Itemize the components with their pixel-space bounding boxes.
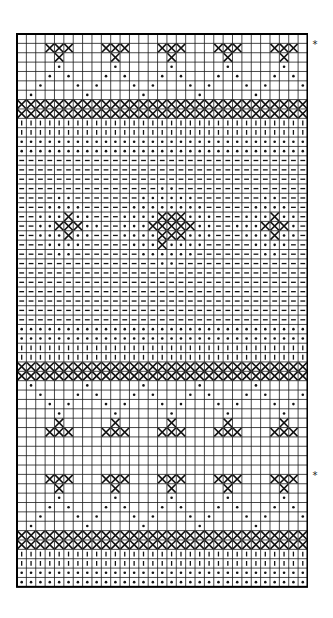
dot-symbol bbox=[208, 215, 211, 218]
dot-symbol bbox=[227, 581, 230, 584]
dot-symbol bbox=[198, 225, 201, 228]
dot-symbol bbox=[180, 75, 183, 78]
dot-symbol bbox=[152, 84, 155, 87]
dot-symbol bbox=[292, 328, 295, 331]
dot-symbol bbox=[227, 412, 230, 415]
dot-symbol bbox=[301, 328, 304, 331]
dot-symbol bbox=[30, 581, 33, 584]
dot-symbol bbox=[67, 581, 70, 584]
dot-symbol bbox=[245, 328, 248, 331]
dot-symbol bbox=[152, 150, 155, 153]
dot-symbol bbox=[58, 328, 61, 331]
dot-symbol bbox=[133, 225, 136, 228]
dot-symbol bbox=[198, 150, 201, 153]
dot-symbol bbox=[133, 571, 136, 574]
dot-symbol bbox=[301, 393, 304, 396]
dot-symbol bbox=[180, 337, 183, 340]
dot-symbol bbox=[180, 328, 183, 331]
dot-symbol bbox=[236, 506, 239, 509]
dot-symbol bbox=[58, 571, 61, 574]
dot-symbol bbox=[273, 253, 276, 256]
dot-symbol bbox=[123, 571, 126, 574]
dot-symbol bbox=[283, 571, 286, 574]
dot-symbol bbox=[161, 140, 164, 143]
dot-symbol bbox=[95, 337, 98, 340]
dot-symbol bbox=[123, 234, 126, 237]
dot-symbol bbox=[208, 328, 211, 331]
dot-symbol bbox=[283, 65, 286, 68]
dot-symbol bbox=[198, 328, 201, 331]
dot-symbol bbox=[161, 253, 164, 256]
dot-symbol bbox=[95, 581, 98, 584]
dot-symbol bbox=[114, 150, 117, 153]
dot-symbol bbox=[180, 206, 183, 209]
dot-symbol bbox=[292, 234, 295, 237]
dot-symbol bbox=[283, 234, 286, 237]
dot-symbol bbox=[152, 244, 155, 247]
dot-symbol bbox=[114, 328, 117, 331]
dot-symbol bbox=[58, 140, 61, 143]
dot-symbol bbox=[77, 515, 80, 518]
dot-symbol bbox=[227, 337, 230, 340]
dot-symbol bbox=[123, 581, 126, 584]
dot-symbol bbox=[77, 393, 80, 396]
dot-symbol bbox=[133, 234, 136, 237]
dot-symbol bbox=[264, 197, 267, 200]
dot-symbol bbox=[236, 403, 239, 406]
dot-symbol bbox=[189, 234, 192, 237]
dot-symbol bbox=[255, 234, 258, 237]
knitting-chart-grid bbox=[16, 33, 308, 588]
dot-symbol bbox=[105, 328, 108, 331]
dot-symbol bbox=[227, 328, 230, 331]
dot-symbol bbox=[39, 515, 42, 518]
dot-symbol bbox=[273, 150, 276, 153]
dot-symbol bbox=[142, 225, 145, 228]
dot-symbol bbox=[77, 581, 80, 584]
dot-symbol bbox=[180, 581, 183, 584]
dot-symbol bbox=[39, 234, 42, 237]
dot-symbol bbox=[236, 328, 239, 331]
dot-symbol bbox=[189, 244, 192, 247]
dot-symbol bbox=[189, 337, 192, 340]
dot-symbol bbox=[170, 497, 173, 500]
dot-symbol bbox=[77, 150, 80, 153]
dot-symbol bbox=[48, 75, 51, 78]
dot-symbol bbox=[245, 571, 248, 574]
dot-symbol bbox=[189, 197, 192, 200]
dot-symbol bbox=[152, 197, 155, 200]
dot-symbol bbox=[170, 337, 173, 340]
dot-symbol bbox=[217, 506, 220, 509]
dot-symbol bbox=[189, 393, 192, 396]
dot-symbol bbox=[39, 571, 42, 574]
dot-symbol bbox=[161, 197, 164, 200]
dot-symbol bbox=[77, 84, 80, 87]
dot-symbol bbox=[105, 140, 108, 143]
dot-symbol bbox=[77, 206, 80, 209]
dot-symbol bbox=[227, 140, 230, 143]
dot-symbol bbox=[105, 75, 108, 78]
dot-symbol bbox=[86, 571, 89, 574]
dot-symbol bbox=[255, 215, 258, 218]
dot-symbol bbox=[142, 253, 145, 256]
dot-symbol bbox=[264, 234, 267, 237]
dot-symbol bbox=[142, 94, 145, 97]
dot-symbol bbox=[180, 150, 183, 153]
dot-symbol bbox=[245, 150, 248, 153]
dot-symbol bbox=[208, 234, 211, 237]
dot-symbol bbox=[95, 571, 98, 574]
dot-symbol bbox=[161, 187, 164, 190]
dot-symbol bbox=[217, 328, 220, 331]
dot-symbol bbox=[142, 150, 145, 153]
dot-symbol bbox=[189, 150, 192, 153]
dot-symbol bbox=[292, 506, 295, 509]
dot-symbol bbox=[198, 215, 201, 218]
dot-symbol bbox=[123, 328, 126, 331]
dot-symbol bbox=[180, 253, 183, 256]
dot-symbol bbox=[133, 581, 136, 584]
dot-symbol bbox=[142, 337, 145, 340]
dot-symbol bbox=[114, 581, 117, 584]
dot-symbol bbox=[86, 150, 89, 153]
dot-symbol bbox=[292, 571, 295, 574]
dot-symbol bbox=[123, 75, 126, 78]
dot-symbol bbox=[255, 571, 258, 574]
